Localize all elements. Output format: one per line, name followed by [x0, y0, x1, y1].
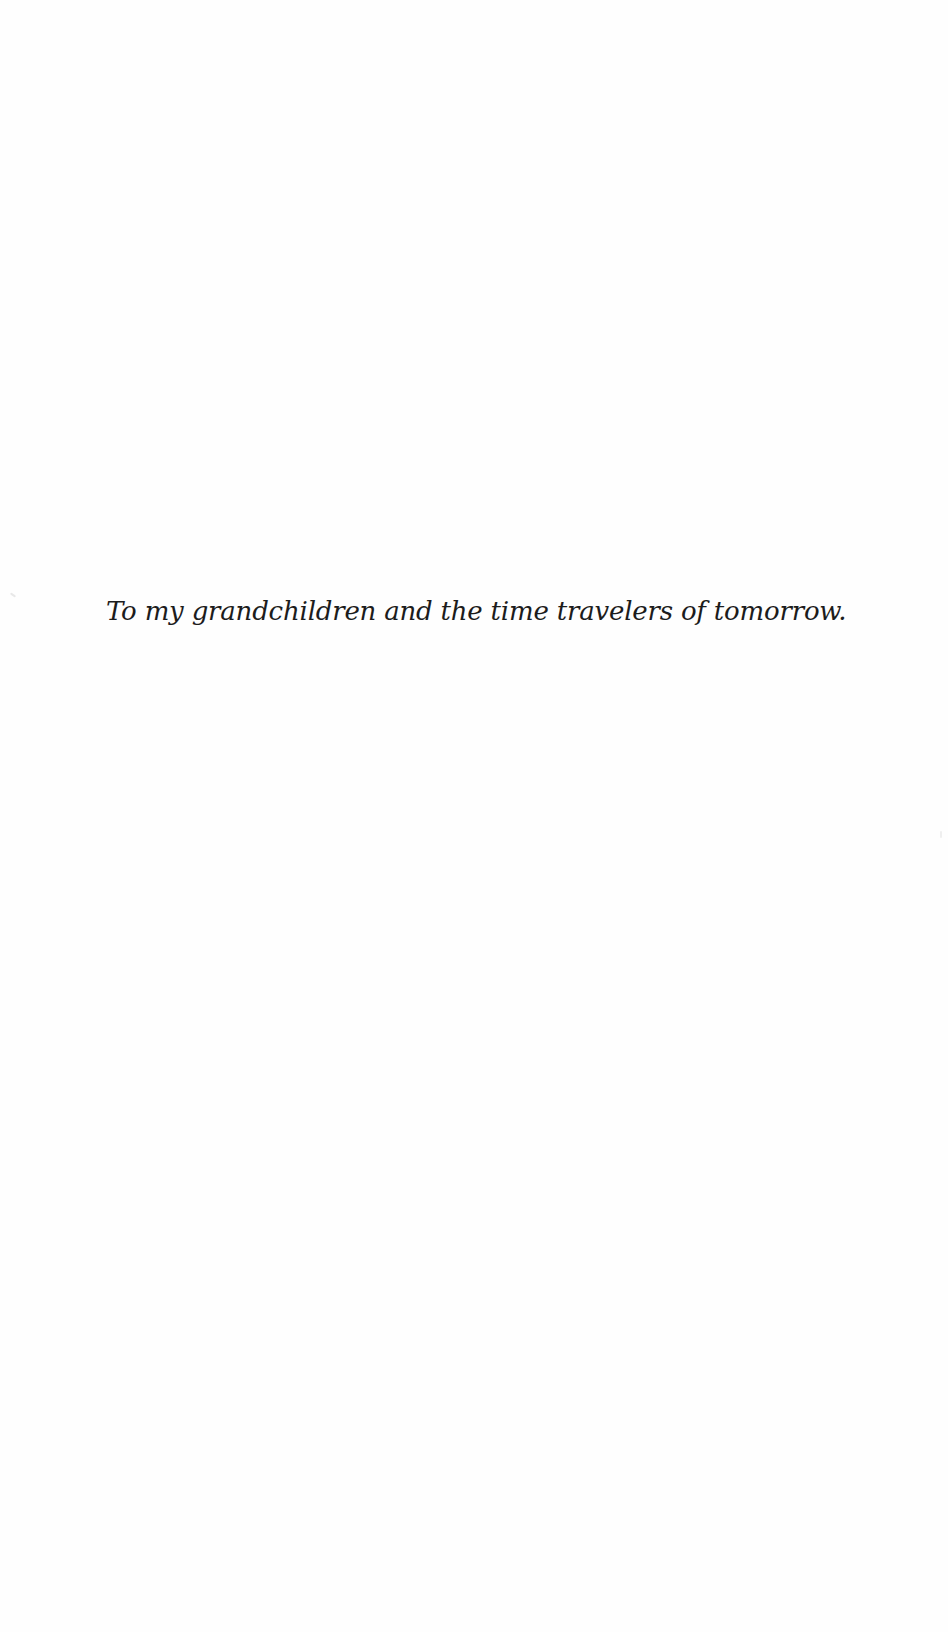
dedication-text: To my grandchildren and the time travele…: [106, 591, 826, 631]
scan-artifact: [10, 592, 16, 597]
book-page: To my grandchildren and the time travele…: [0, 0, 948, 1632]
scan-artifact: [940, 831, 942, 838]
